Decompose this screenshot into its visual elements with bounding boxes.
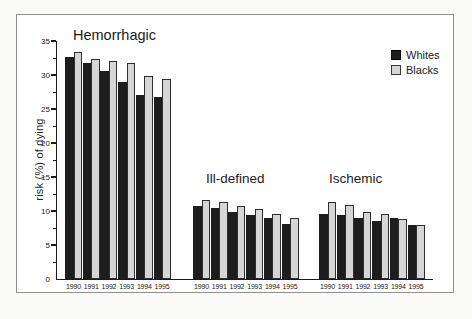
- bar-blacks-illdefined-1992: [237, 206, 246, 279]
- group-title-ill-defined: Ill-defined: [206, 171, 265, 186]
- bar-blacks-ischemic-1990: [328, 202, 337, 279]
- bar-whites-ischemic-1993: [372, 221, 381, 279]
- y-minor-tick-7.5: [53, 228, 57, 229]
- bar-whites-illdefined-1993: [246, 215, 255, 279]
- whites-swatch-icon: [391, 50, 401, 60]
- bar-whites-illdefined-1990: [193, 206, 202, 279]
- bar-whites-illdefined-1995: [282, 224, 291, 279]
- y-major-tick-30: [51, 74, 57, 75]
- y-minor-tick-12.5: [53, 194, 57, 195]
- x-label-ischemic-1991: 1991: [336, 283, 354, 291]
- bar-whites-illdefined-1992: [228, 212, 237, 279]
- bar-blacks-illdefined-1995: [290, 218, 299, 279]
- x-label-hemorrhagic-1990: 1990: [65, 283, 83, 291]
- legend-label-whites: Whites: [406, 49, 440, 61]
- y-minor-tick-32.5: [53, 58, 57, 59]
- bar-whites-hemorrhagic-1991: [83, 63, 92, 279]
- bar-whites-ischemic-1994: [390, 218, 399, 279]
- y-minor-tick-22.5: [53, 126, 57, 127]
- bar-blacks-illdefined-1990: [202, 200, 211, 279]
- y-major-tick-20: [51, 142, 57, 143]
- bar-whites-hemorrhagic-1992: [100, 71, 109, 279]
- y-tick-label-5: 5: [30, 241, 50, 250]
- bar-blacks-ischemic-1995: [416, 225, 425, 279]
- x-label-hemorrhagic-1995: 1995: [153, 283, 171, 291]
- x-label-ischemic-1992: 1992: [354, 283, 372, 291]
- bar-blacks-illdefined-1993: [255, 209, 264, 279]
- bar-whites-ischemic-1991: [337, 215, 346, 279]
- bar-blacks-ischemic-1994: [398, 219, 407, 279]
- y-tick-label-35: 35: [30, 37, 50, 46]
- x-label-ischemic-1994: 1994: [389, 283, 407, 291]
- y-tick-label-20: 20: [30, 139, 50, 148]
- chart-frame: risk (%) of dying 05101520253035 1990199…: [16, 14, 454, 293]
- bar-blacks-hemorrhagic-1995: [162, 79, 171, 279]
- bar-whites-hemorrhagic-1995: [154, 97, 163, 279]
- y-major-tick-15: [51, 176, 57, 177]
- legend: Whites Blacks: [391, 49, 440, 79]
- x-label-illdefined-1992: 1992: [228, 283, 246, 291]
- y-major-tick-35: [51, 40, 57, 41]
- x-label-illdefined-1995: 1995: [281, 283, 299, 291]
- y-axis-title: risk (%) of dying: [33, 99, 46, 221]
- y-tick-label-0: 0: [30, 275, 50, 284]
- x-label-ischemic-1995: 1995: [407, 283, 425, 291]
- y-tick-label-10: 10: [30, 207, 50, 216]
- y-minor-tick-27.5: [53, 92, 57, 93]
- bar-blacks-hemorrhagic-1992: [109, 61, 118, 279]
- bar-whites-hemorrhagic-1994: [136, 95, 145, 279]
- x-label-hemorrhagic-1992: 1992: [100, 283, 118, 291]
- y-major-tick-10: [51, 210, 57, 211]
- bar-blacks-ischemic-1991: [345, 205, 354, 279]
- group-title-hemorrhagic: Hemorrhagic: [73, 27, 156, 43]
- bar-blacks-ischemic-1992: [363, 212, 372, 279]
- x-label-hemorrhagic-1991: 1991: [82, 283, 100, 291]
- bar-whites-ischemic-1992: [354, 218, 363, 279]
- bar-whites-ischemic-1995: [408, 225, 417, 279]
- bar-blacks-hemorrhagic-1993: [127, 63, 136, 279]
- bar-whites-ischemic-1990: [319, 214, 328, 279]
- x-label-illdefined-1991: 1991: [210, 283, 228, 291]
- y-minor-tick-2.5: [53, 262, 57, 263]
- x-label-illdefined-1993: 1993: [246, 283, 264, 291]
- x-label-ischemic-1990: 1990: [319, 283, 337, 291]
- bar-whites-illdefined-1994: [264, 218, 273, 279]
- blacks-swatch-icon: [391, 65, 401, 75]
- x-label-illdefined-1990: 1990: [193, 283, 211, 291]
- bar-blacks-illdefined-1994: [272, 214, 281, 279]
- y-major-tick-25: [51, 108, 57, 109]
- legend-row-whites: Whites: [391, 49, 440, 61]
- bar-whites-illdefined-1991: [211, 208, 220, 279]
- group-title-ischemic: Ischemic: [329, 171, 382, 186]
- figure-scan: risk (%) of dying 05101520253035 1990199…: [0, 0, 472, 319]
- x-label-ischemic-1993: 1993: [372, 283, 390, 291]
- y-major-tick-5: [51, 244, 57, 245]
- bar-blacks-ischemic-1993: [381, 214, 390, 279]
- x-label-illdefined-1994: 1994: [263, 283, 281, 291]
- legend-row-blacks: Blacks: [391, 64, 440, 76]
- bar-blacks-hemorrhagic-1994: [144, 76, 153, 279]
- bar-whites-hemorrhagic-1990: [65, 57, 74, 279]
- y-minor-tick-17.5: [53, 160, 57, 161]
- y-tick-label-25: 25: [30, 105, 50, 114]
- bar-blacks-illdefined-1991: [219, 202, 228, 279]
- x-label-hemorrhagic-1994: 1994: [135, 283, 153, 291]
- y-tick-label-15: 15: [30, 173, 50, 182]
- bar-blacks-hemorrhagic-1990: [74, 52, 83, 279]
- y-tick-label-30: 30: [30, 71, 50, 80]
- plot-area: risk (%) of dying 05101520253035 1990199…: [17, 15, 453, 292]
- bar-blacks-hemorrhagic-1991: [91, 59, 100, 279]
- x-label-hemorrhagic-1993: 1993: [118, 283, 136, 291]
- bar-whites-hemorrhagic-1993: [118, 82, 127, 279]
- legend-label-blacks: Blacks: [406, 64, 438, 76]
